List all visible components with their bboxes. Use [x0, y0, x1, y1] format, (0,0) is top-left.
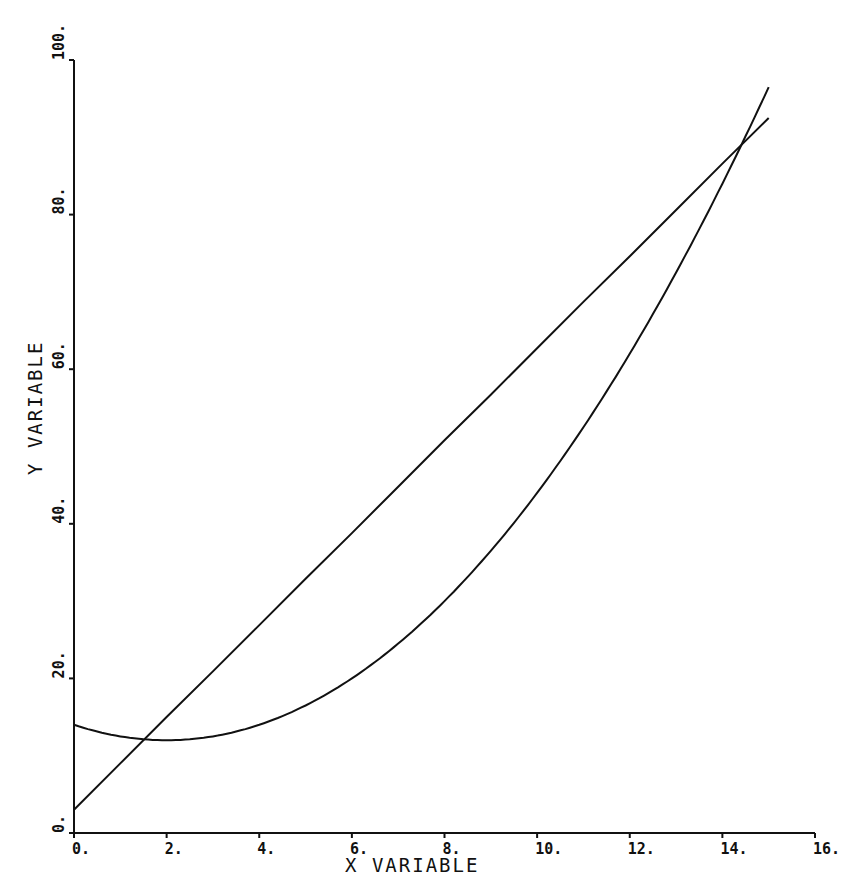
x-tick-label: 0.	[72, 840, 90, 858]
y-axis-label: Y VARIABLE	[24, 341, 46, 475]
series-group	[74, 87, 769, 810]
x-tick-label: 12.	[628, 840, 655, 858]
y-tick-label: 100.	[50, 24, 68, 60]
y-tick-label: 0.	[50, 815, 68, 833]
x-axis-label: X VARIABLE	[345, 854, 479, 876]
x-tick-label: 14.	[720, 840, 747, 858]
x-tick-label: 2.	[165, 840, 183, 858]
x-tick-label: 10.	[535, 840, 562, 858]
y-tick-label: 60.	[50, 342, 68, 369]
series-quadratic-line	[74, 87, 769, 740]
x-tick-label: 4.	[257, 840, 275, 858]
chart: 0.2.4.6.8.10.12.14.16.0.20.40.60.80.100.…	[0, 0, 853, 892]
series-linear-line	[74, 118, 769, 810]
plot-area: 0.2.4.6.8.10.12.14.16.0.20.40.60.80.100.…	[0, 0, 853, 892]
y-tick-label: 40.	[50, 497, 68, 524]
y-tick-label: 20.	[50, 651, 68, 678]
x-tick-label: 16.	[813, 840, 840, 858]
y-tick-label: 80.	[50, 188, 68, 215]
